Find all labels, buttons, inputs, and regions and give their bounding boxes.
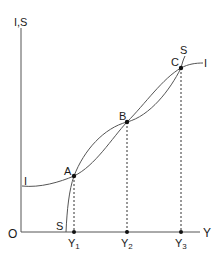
point-a-label: A (64, 166, 71, 177)
investment-curve (22, 63, 203, 186)
y3-tick-label: Y3 (175, 238, 187, 251)
investment-curve-label-left: I (24, 176, 27, 187)
point-c-label: C (171, 57, 179, 68)
saving-curve-label-top: S (180, 45, 187, 56)
income-saving-investment-diagram (0, 0, 220, 264)
point-b-label: B (119, 111, 126, 122)
tick-y2 (125, 230, 129, 234)
y-axis-label: I,S (14, 17, 27, 28)
investment-curve-label-right: I (204, 58, 207, 69)
tick-y3 (179, 230, 183, 234)
y2-tick-label: Y2 (121, 238, 133, 251)
saving-curve-label-bottom: S (56, 221, 63, 232)
saving-curve (66, 56, 185, 232)
x-axis-label: Y (203, 227, 211, 239)
y1-tick-label: Y1 (68, 238, 80, 251)
point-c (179, 66, 183, 70)
tick-y1 (72, 230, 76, 234)
origin-label: O (8, 228, 17, 240)
point-a (72, 174, 76, 178)
